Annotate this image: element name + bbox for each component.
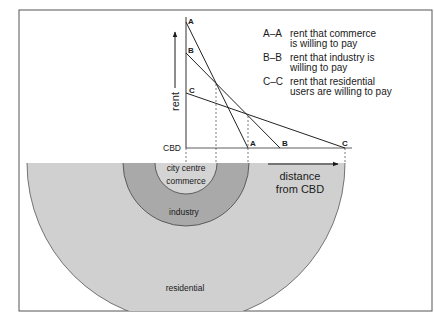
legend-key-b: B–B bbox=[263, 52, 282, 63]
y-axis-label: rent bbox=[169, 92, 181, 111]
legend-text-b-2: willing to pay bbox=[289, 62, 347, 73]
legend-text-c-2: users are willing to pay bbox=[290, 86, 392, 97]
curve-c-end-label: C bbox=[342, 139, 348, 148]
zone-residential-label: residential bbox=[166, 283, 205, 293]
curve-a-end-label: A bbox=[250, 139, 256, 148]
curve-b-start-label: B bbox=[188, 46, 194, 55]
x-axis-label-line1: distance bbox=[280, 170, 321, 182]
curve-b-end-label: B bbox=[282, 139, 288, 148]
zone-commerce-label-2: commerce bbox=[166, 176, 206, 186]
origin-label: CBD bbox=[163, 143, 181, 153]
legend-key-a: A–A bbox=[263, 28, 282, 39]
zone-industry-label: industry bbox=[169, 207, 200, 217]
x-axis-label-line2: from CBD bbox=[276, 183, 324, 195]
legend: A–A rent that commerce is willing to pay… bbox=[263, 28, 392, 97]
bid-rent-diagram: rent CBD A B C A B C A–A rent that comme… bbox=[0, 0, 434, 321]
zone-commerce-label-1: city centre bbox=[167, 163, 206, 173]
legend-key-c: C–C bbox=[263, 76, 283, 87]
curve-a-start-label: A bbox=[188, 17, 194, 26]
curve-c-start-label: C bbox=[189, 86, 195, 95]
curve-c bbox=[186, 93, 345, 148]
curve-b bbox=[186, 53, 280, 148]
legend-text-a-2: is willing to pay bbox=[290, 38, 357, 49]
